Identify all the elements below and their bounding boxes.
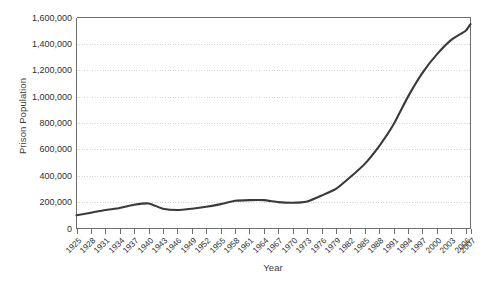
prison-population-chart: Prison Population 0200,000400,000600,000… bbox=[0, 0, 500, 286]
x-axis-title: Year bbox=[76, 262, 470, 273]
x-axis-tick-labels: 1925192819311934193719401943194619491952… bbox=[0, 0, 500, 286]
